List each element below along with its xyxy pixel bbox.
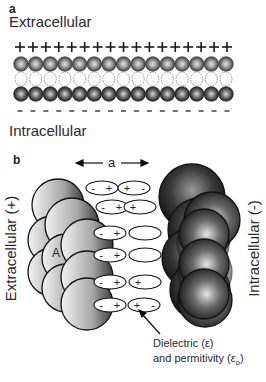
- dipole-row: -++-: [94, 298, 160, 312]
- intracellular-spheres: [159, 164, 240, 327]
- svg-text:-: -: [99, 299, 103, 311]
- lipid-heads-bottom: [14, 87, 234, 102]
- distance-label: a: [108, 155, 115, 170]
- svg-text:-: -: [101, 201, 105, 213]
- svg-text:+: +: [106, 182, 112, 194]
- extracellular-positive-label: Extracellular (+): [2, 189, 19, 309]
- dipole-row: -+: [94, 226, 161, 240]
- membrane-diagram: -++--++-+-+-++-++-: [0, 0, 266, 382]
- caption-line-2: and permitivity (εo): [153, 351, 244, 370]
- dielectric-caption: Dielectric (ε) and permitivity (εo): [153, 336, 244, 370]
- svg-text:+: +: [134, 299, 140, 311]
- svg-text:+: +: [116, 201, 122, 213]
- svg-text:-: -: [151, 299, 155, 311]
- svg-text:+: +: [114, 299, 120, 311]
- positive-charges: [15, 42, 232, 52]
- lipid-heads-top: [14, 57, 234, 72]
- svg-text:+: +: [135, 276, 141, 288]
- svg-text:+: +: [114, 227, 120, 239]
- sphere-a-label: A: [52, 246, 60, 260]
- dielectric-pointer: [139, 310, 160, 334]
- intracellular-negative-label: Intracellular (-): [245, 189, 262, 309]
- dipole-row: -++: [96, 200, 156, 214]
- svg-text:+: +: [114, 276, 120, 288]
- dipole-row: -++-: [86, 181, 150, 195]
- svg-text:-: -: [99, 249, 103, 261]
- intracellular-label: Intracellular: [9, 122, 87, 139]
- svg-text:+: +: [114, 249, 120, 261]
- svg-text:+: +: [130, 201, 136, 213]
- svg-text:-: -: [99, 276, 103, 288]
- svg-text:-: -: [141, 182, 145, 194]
- panel-b-label: b: [13, 153, 20, 167]
- dipole-row: -++: [94, 275, 161, 289]
- svg-text:-: -: [99, 227, 103, 239]
- svg-text:-: -: [91, 182, 95, 194]
- svg-text:+: +: [124, 182, 130, 194]
- dipole-row: -+: [94, 248, 161, 262]
- caption-line-1: Dielectric (ε): [153, 336, 244, 351]
- lipid-tails: [15, 72, 232, 86]
